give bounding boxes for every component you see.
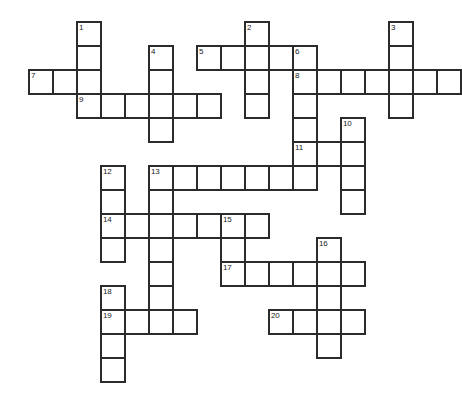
- cell-number: 3: [391, 23, 395, 32]
- crossword-cell[interactable]: [244, 213, 270, 239]
- crossword-cell[interactable]: [292, 261, 318, 287]
- crossword-cell-numbered[interactable]: 4: [148, 45, 174, 71]
- cell-number: 18: [103, 287, 112, 296]
- crossword-cell[interactable]: [220, 165, 246, 191]
- crossword-cell[interactable]: [196, 213, 222, 239]
- cell-number: 4: [151, 47, 155, 56]
- crossword-cell-numbered[interactable]: 8: [292, 69, 318, 95]
- crossword-cell[interactable]: [244, 93, 270, 119]
- crossword-cell[interactable]: [148, 309, 174, 335]
- crossword-cell[interactable]: [148, 189, 174, 215]
- crossword-cell[interactable]: [340, 141, 366, 167]
- crossword-cell[interactable]: [220, 237, 246, 263]
- crossword-cell[interactable]: [76, 69, 102, 95]
- crossword-cell[interactable]: [388, 93, 414, 119]
- crossword-cell[interactable]: [316, 333, 342, 359]
- crossword-cell[interactable]: [148, 237, 174, 263]
- crossword-cell-numbered[interactable]: 15: [220, 213, 246, 239]
- crossword-cell[interactable]: [292, 93, 318, 119]
- crossword-cell-numbered[interactable]: 19: [100, 309, 126, 335]
- crossword-cell[interactable]: [76, 45, 102, 71]
- crossword-cell[interactable]: [340, 309, 366, 335]
- crossword-cell[interactable]: [340, 261, 366, 287]
- crossword-cell[interactable]: [340, 69, 366, 95]
- crossword-cell[interactable]: [268, 45, 294, 71]
- crossword-cell-numbered[interactable]: 7: [28, 69, 54, 95]
- crossword-cell[interactable]: [436, 69, 462, 95]
- crossword-cell[interactable]: [124, 309, 150, 335]
- cell-number: 17: [223, 263, 232, 272]
- crossword-cell[interactable]: [292, 309, 318, 335]
- crossword-cell[interactable]: [196, 165, 222, 191]
- crossword-cell[interactable]: [100, 237, 126, 263]
- crossword-cell-numbered[interactable]: 10: [340, 117, 366, 143]
- crossword-cell[interactable]: [340, 165, 366, 191]
- crossword-cell[interactable]: [364, 69, 390, 95]
- cell-number: 1: [79, 23, 83, 32]
- crossword-cell[interactable]: [388, 69, 414, 95]
- crossword-cell[interactable]: [316, 309, 342, 335]
- crossword-cell[interactable]: [100, 357, 126, 383]
- cell-number: 11: [295, 143, 303, 152]
- crossword-cell[interactable]: [412, 69, 438, 95]
- crossword-cell[interactable]: [148, 117, 174, 143]
- crossword-cell[interactable]: [244, 45, 270, 71]
- crossword-cell[interactable]: [148, 285, 174, 311]
- cell-number: 19: [103, 311, 112, 320]
- crossword-cell[interactable]: [172, 93, 198, 119]
- cell-number: 12: [103, 167, 112, 176]
- crossword-cell[interactable]: [220, 45, 246, 71]
- crossword-cell[interactable]: [124, 93, 150, 119]
- cell-number: 6: [295, 47, 299, 56]
- cell-number: 20: [271, 311, 280, 320]
- crossword-cell[interactable]: [148, 213, 174, 239]
- crossword-cell[interactable]: [316, 141, 342, 167]
- crossword-cell-numbered[interactable]: 1: [76, 21, 102, 47]
- crossword-cell[interactable]: [316, 261, 342, 287]
- crossword-cell[interactable]: [388, 45, 414, 71]
- cell-number: 2: [247, 23, 251, 32]
- crossword-cell[interactable]: [292, 117, 318, 143]
- crossword-cell-numbered[interactable]: 12: [100, 165, 126, 191]
- cell-number: 7: [31, 71, 35, 80]
- crossword-cell[interactable]: [244, 165, 270, 191]
- crossword-cell[interactable]: [148, 69, 174, 95]
- cell-number: 5: [199, 47, 203, 56]
- cell-number: 8: [295, 71, 299, 80]
- crossword-cell-numbered[interactable]: 6: [292, 45, 318, 71]
- crossword-cell[interactable]: [268, 261, 294, 287]
- crossword-cell-numbered[interactable]: 14: [100, 213, 126, 239]
- crossword-cell[interactable]: [244, 261, 270, 287]
- crossword-cell[interactable]: [148, 261, 174, 287]
- crossword-cell[interactable]: [52, 69, 78, 95]
- cell-number: 14: [103, 215, 112, 224]
- crossword-cell-numbered[interactable]: 5: [196, 45, 222, 71]
- crossword-cell[interactable]: [196, 93, 222, 119]
- crossword-cell[interactable]: [100, 93, 126, 119]
- crossword-cell-numbered[interactable]: 2: [244, 21, 270, 47]
- crossword-cell-numbered[interactable]: 9: [76, 93, 102, 119]
- cell-number: 10: [343, 119, 352, 128]
- crossword-cell[interactable]: [124, 213, 150, 239]
- crossword-cell[interactable]: [316, 69, 342, 95]
- crossword-cell-numbered[interactable]: 17: [220, 261, 246, 287]
- cell-number: 9: [79, 95, 83, 104]
- crossword-cell-numbered[interactable]: 16: [316, 237, 342, 263]
- crossword-cell[interactable]: [172, 213, 198, 239]
- crossword-cell[interactable]: [100, 189, 126, 215]
- cell-number: 15: [223, 215, 232, 224]
- crossword-cell[interactable]: [172, 165, 198, 191]
- crossword-cell-numbered[interactable]: 11: [292, 141, 318, 167]
- crossword-cell[interactable]: [292, 165, 318, 191]
- crossword-cell[interactable]: [316, 285, 342, 311]
- crossword-cell[interactable]: [148, 93, 174, 119]
- crossword-cell[interactable]: [172, 309, 198, 335]
- crossword-cell-numbered[interactable]: 20: [268, 309, 294, 335]
- crossword-cell-numbered[interactable]: 13: [148, 165, 174, 191]
- crossword-cell[interactable]: [340, 189, 366, 215]
- crossword-cell[interactable]: [100, 333, 126, 359]
- crossword-cell-numbered[interactable]: 3: [388, 21, 414, 47]
- crossword-cell[interactable]: [268, 165, 294, 191]
- crossword-cell-numbered[interactable]: 18: [100, 285, 126, 311]
- crossword-cell[interactable]: [244, 69, 270, 95]
